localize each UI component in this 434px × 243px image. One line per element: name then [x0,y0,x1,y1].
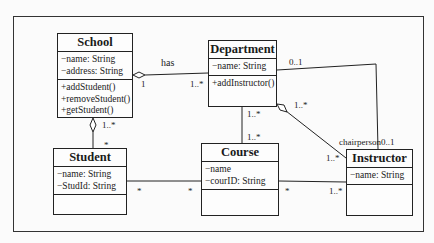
mult-course-instr-right: 1..* [329,186,343,196]
attribute: −name: String [212,61,273,73]
operation: +removeStudent() [61,94,129,106]
class-department[interactable]: Department −name: String +addInstructor(… [208,40,277,107]
operation: +addStudent() [61,82,129,94]
class-instructor[interactable]: Instructor −name: String [346,149,413,216]
operation: +getStudent() [61,105,129,117]
operation: +addInstructor() [212,78,273,90]
mult-dept-course-bottom: 1..* [247,132,261,142]
class-operations [54,195,126,199]
mult-dept-course-top: 1..* [247,109,261,119]
class-course[interactable]: Course −name −courID: String [201,143,279,216]
class-attributes: −name −courID: String [202,162,278,190]
mult-dept-zero-one: 0..1 [289,57,303,67]
class-attributes: −name: String −address: String [58,52,132,80]
attribute: −address: String [61,66,129,78]
class-attributes: −name: String [209,59,276,76]
label-has: has [161,58,174,68]
mult-student-star: * [104,140,109,150]
attribute: −name: String [57,169,123,181]
mult-dept-agg-instr: 1..* [294,100,308,110]
attribute: −courID: String [205,176,275,188]
attribute: −name [205,164,275,176]
class-name: Department [209,41,276,59]
class-operations [347,185,412,189]
class-name: Course [202,144,278,162]
mult-course-instr-left: * [285,186,290,196]
class-student[interactable]: Student −name: String −StudId: String [53,148,127,215]
class-operations [202,190,278,194]
mult-student-course-left: * [137,186,142,196]
class-school[interactable]: School −name: String −address: String +a… [57,33,133,118]
class-attributes: −name: String [347,168,412,185]
attribute: −name: String [61,54,129,66]
mult-school-dept-many: 1..* [190,79,204,89]
class-operations: +addInstructor() [209,76,276,92]
mult-instr-agg-end: 1..* [326,153,340,163]
class-name: Student [54,149,126,167]
mult-school-student: 1..* [102,120,116,130]
role-chairperson: chairperson0..1 [339,137,394,147]
class-name: Instructor [347,150,412,168]
mult-school-dept-1: 1 [141,79,146,89]
class-attributes: −name: String −StudId: String [54,167,126,195]
class-name: School [58,34,132,52]
attribute: −StudId: String [57,181,123,193]
class-operations: +addStudent() +removeStudent() +getStude… [58,80,132,119]
mult-student-course-right: * [188,186,193,196]
attribute: −name: String [350,170,409,182]
